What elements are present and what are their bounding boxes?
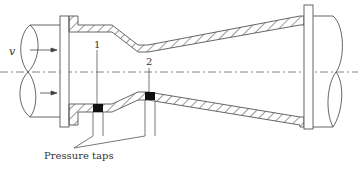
velocity-label: v [9, 45, 16, 58]
right-flange [304, 5, 313, 129]
tap-2-label: 2 [146, 56, 152, 67]
pressure-tap-2-block [145, 92, 155, 100]
top-wall [69, 16, 304, 52]
venturi-diagram: v 1 2 Pressure taps [0, 0, 361, 171]
flow-arrows [30, 48, 57, 95]
tap-1-label: 1 [94, 39, 100, 50]
inlet-pipe [20, 25, 60, 117]
pressure-taps-label: Pressure taps [44, 150, 114, 161]
outlet-pipe [313, 16, 342, 127]
bottom-wall [69, 92, 304, 127]
left-flange [60, 16, 69, 127]
pressure-taps-leaders [74, 136, 145, 148]
pressure-tap-1-block [93, 104, 103, 112]
